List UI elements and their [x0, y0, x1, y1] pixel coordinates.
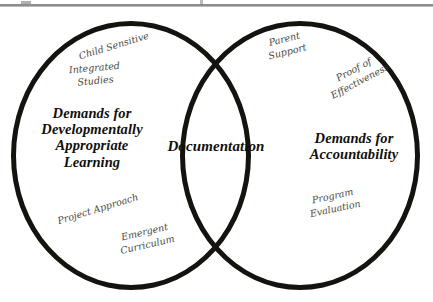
scan-artifact-speck-center	[200, 0, 203, 5]
venn-left-set-label: Demands for Developmentally Appropriate …	[22, 105, 162, 170]
venn-right-set-label: Demands for Accountability	[288, 130, 420, 162]
venn-intersection-label: Documentation	[158, 138, 274, 155]
page-top-rule-shadow	[0, 6, 433, 7]
venn-diagram-page: Demands for Developmentally Appropriate …	[0, 0, 433, 302]
scan-artifact-speck-left	[21, 1, 31, 4]
